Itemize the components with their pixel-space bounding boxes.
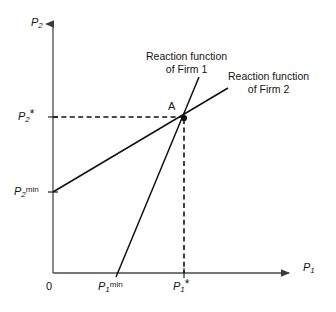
equilibrium-point-a [181, 115, 187, 121]
y-axis-label: P2 [31, 16, 43, 28]
reaction-function-firm-2-line [53, 88, 228, 192]
origin-label: 0 [46, 280, 52, 292]
x-tick-label-p1-star: P1* [173, 280, 189, 292]
reaction-function-diagram: P2 P1 P2* P2min 0 P1min P1* A Reaction f… [0, 0, 336, 312]
y-tick-label-p2-min: P2min [14, 185, 39, 197]
y-tick-label-p2-star: P2* [18, 110, 34, 122]
annotation-firm-1-line-1: Reaction function [146, 50, 227, 62]
x-axis-label: P1 [303, 261, 315, 273]
equilibrium-point-label: A [168, 100, 175, 112]
annotation-firm-1-line-2: of Firm 1 [146, 63, 227, 76]
annotation-reaction-function-firm-2: Reaction function of Firm 2 [228, 70, 309, 95]
diagram-canvas [0, 0, 336, 312]
reaction-function-firm-1-line [116, 77, 199, 277]
annotation-firm-2-line-2: of Firm 2 [228, 83, 309, 96]
x-tick-label-p1-min: P1min [98, 280, 123, 292]
annotation-reaction-function-firm-1: Reaction function of Firm 1 [146, 50, 227, 75]
annotation-firm-2-line-1: Reaction function [228, 70, 309, 82]
